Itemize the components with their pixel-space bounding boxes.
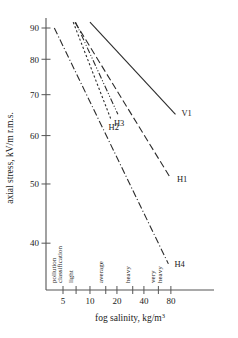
series-label-h1: H1 [177, 174, 187, 184]
chart-figure: 405060708090510204080lightaverageheavyve… [0, 0, 238, 338]
y-axis-tick-label: 80 [30, 55, 40, 65]
classification-band-label: heavy [156, 266, 164, 283]
series-label-v1: V1 [181, 108, 191, 118]
axial-stress-vs-fog-salinity-chart: 405060708090510204080lightaverageheavyve… [0, 0, 238, 338]
x-axis-tick-label: 80 [166, 296, 176, 306]
y-axis-tick-label: 40 [30, 238, 40, 248]
y-axis-tick-label: 50 [30, 179, 40, 189]
classification-band-label: average [97, 261, 105, 283]
y-axis-title: axial stress, kV/m r.m.s. [5, 112, 15, 204]
series-line-h3 [76, 22, 118, 114]
classification-band-label: heavy [124, 266, 132, 283]
x-axis-tick-label: 20 [112, 296, 122, 306]
classification-band-label: light [67, 270, 75, 283]
y-axis-tick-label: 90 [30, 23, 40, 33]
series-label-h3: H3 [114, 118, 124, 128]
y-axis-tick-label: 70 [30, 90, 40, 100]
series-label-h4: H4 [174, 259, 185, 269]
x-axis-tick-label: 5 [61, 296, 66, 306]
x-axis-tick-label: 10 [85, 296, 95, 306]
x-axis-title: fog salinity, kg/m3 [95, 312, 165, 323]
pollution-classification-caption: classification [56, 246, 64, 283]
y-axis-tick-label: 60 [30, 131, 40, 141]
x-axis-tick-label: 40 [139, 296, 149, 306]
